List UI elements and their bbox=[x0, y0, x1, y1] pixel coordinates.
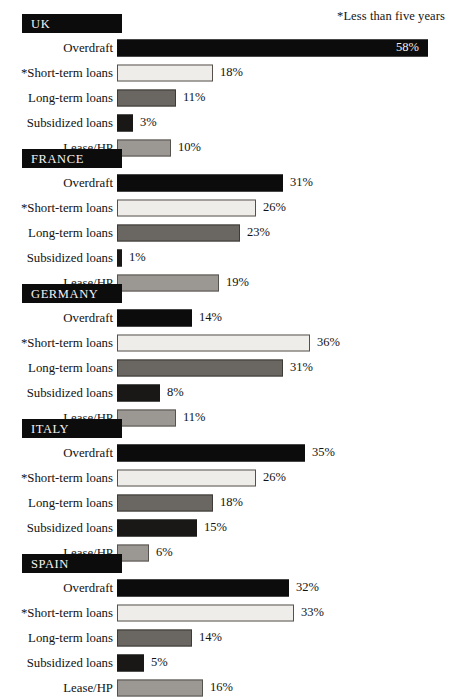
bar-value-label: 14% bbox=[199, 311, 222, 324]
bar-value-label: 35% bbox=[312, 446, 335, 459]
bar-value-label: 36% bbox=[317, 336, 340, 349]
bar-value-label: 18% bbox=[220, 496, 243, 509]
bar-value-label: 6% bbox=[156, 546, 173, 559]
bar-value-label: 3% bbox=[140, 116, 157, 129]
bar-row: *Short-term loans26% bbox=[0, 195, 451, 220]
bar-value-label: 1% bbox=[129, 251, 146, 264]
bar-row: Long-term loans31% bbox=[0, 355, 451, 380]
bar-value-label: 26% bbox=[263, 201, 286, 214]
bar bbox=[117, 519, 197, 536]
bar bbox=[117, 494, 213, 511]
country-rows: Overdraft14%*Short-term loans36%Long-ter… bbox=[0, 305, 451, 430]
bar-row-label: Long-term loans bbox=[28, 631, 113, 644]
bar bbox=[117, 629, 192, 646]
bar-row-label: Long-term loans bbox=[28, 91, 113, 104]
bar-row-label: *Short-term loans bbox=[21, 471, 113, 484]
bar-row-label: Subsidized loans bbox=[27, 386, 113, 399]
bar-row-label: Overdraft bbox=[63, 446, 113, 459]
bar-row-label: *Short-term loans bbox=[21, 201, 113, 214]
bar-row: Overdraft14% bbox=[0, 305, 451, 330]
bar-value-label: 10% bbox=[178, 141, 201, 154]
bar-value-label: 5% bbox=[151, 656, 168, 669]
bar-value-label: 31% bbox=[290, 176, 313, 189]
bar-row: *Short-term loans26% bbox=[0, 465, 451, 490]
bar-value-label: 8% bbox=[167, 386, 184, 399]
bar-row: Long-term loans11% bbox=[0, 85, 451, 110]
bar bbox=[117, 39, 428, 56]
bar bbox=[117, 249, 122, 266]
country-header-germany: GERMANY bbox=[22, 284, 122, 303]
bar bbox=[117, 444, 305, 461]
bar-value-label: 19% bbox=[226, 276, 249, 289]
bar bbox=[117, 359, 283, 376]
bar-row-label: Lease/HP bbox=[63, 681, 113, 694]
bar-row-label: *Short-term loans bbox=[21, 606, 113, 619]
bar-value-label: 14% bbox=[199, 631, 222, 644]
bar-row: Long-term loans23% bbox=[0, 220, 451, 245]
country-rows: Overdraft35%*Short-term loans26%Long-ter… bbox=[0, 440, 451, 565]
bar-row: Subsidized loans8% bbox=[0, 380, 451, 405]
bar-row-label: Overdraft bbox=[63, 176, 113, 189]
country-rows: Overdraft32%*Short-term loans33%Long-ter… bbox=[0, 575, 451, 697]
bar-value-label: 32% bbox=[296, 581, 319, 594]
bar-row-label: Overdraft bbox=[63, 581, 113, 594]
bar bbox=[117, 604, 294, 621]
bar-value-label: 18% bbox=[220, 66, 243, 79]
country-rows: Overdraft31%*Short-term loans26%Long-ter… bbox=[0, 170, 451, 295]
bar-value-label: 15% bbox=[204, 521, 227, 534]
bank-finance-sources-chart: *Less than five years UKOverdraft58%*Sho… bbox=[0, 0, 451, 697]
bar-row-label: *Short-term loans bbox=[21, 66, 113, 79]
bar-row-label: Overdraft bbox=[63, 41, 113, 54]
bar-row: Overdraft58% bbox=[0, 35, 451, 60]
bar-value-label: 58% bbox=[396, 41, 419, 54]
country-header-label: ITALY bbox=[31, 422, 69, 435]
bar bbox=[117, 89, 176, 106]
bar bbox=[117, 224, 240, 241]
bar-row: Overdraft35% bbox=[0, 440, 451, 465]
bar bbox=[117, 174, 283, 191]
bar-value-label: 16% bbox=[210, 681, 233, 694]
bar-row-label: *Short-term loans bbox=[21, 336, 113, 349]
bar-row: Subsidized loans1% bbox=[0, 245, 451, 270]
bar-value-label: 33% bbox=[301, 606, 324, 619]
bar-value-label: 26% bbox=[263, 471, 286, 484]
bar bbox=[117, 679, 203, 696]
bar-row: Subsidized loans3% bbox=[0, 110, 451, 135]
bar bbox=[117, 274, 219, 291]
country-header-label: FRANCE bbox=[31, 152, 84, 165]
bar-row-label: Subsidized loans bbox=[27, 116, 113, 129]
bar-value-label: 31% bbox=[290, 361, 313, 374]
bar-row-label: Long-term loans bbox=[28, 361, 113, 374]
bar-row: Lease/HP16% bbox=[0, 675, 451, 697]
country-header-label: SPAIN bbox=[31, 557, 69, 570]
bar bbox=[117, 469, 256, 486]
bar bbox=[117, 309, 192, 326]
bar-row: *Short-term loans36% bbox=[0, 330, 451, 355]
bar-value-label: 23% bbox=[247, 226, 270, 239]
bar bbox=[117, 409, 176, 426]
bar-row: Long-term loans18% bbox=[0, 490, 451, 515]
bar-row: Overdraft31% bbox=[0, 170, 451, 195]
country-rows: Overdraft58%*Short-term loans18%Long-ter… bbox=[0, 35, 451, 160]
bar-row: Overdraft32% bbox=[0, 575, 451, 600]
bar-row-label: Long-term loans bbox=[28, 496, 113, 509]
bar-row: Long-term loans14% bbox=[0, 625, 451, 650]
bar bbox=[117, 139, 171, 156]
bar-row-label: Overdraft bbox=[63, 311, 113, 324]
bar-value-label: 11% bbox=[183, 411, 205, 424]
bar-row: *Short-term loans18% bbox=[0, 60, 451, 85]
bar bbox=[117, 64, 213, 81]
bar bbox=[117, 334, 310, 351]
bar bbox=[117, 114, 133, 131]
bar-row: Subsidized loans5% bbox=[0, 650, 451, 675]
bar bbox=[117, 579, 289, 596]
country-header-label: GERMANY bbox=[31, 287, 98, 300]
bar-row-label: Subsidized loans bbox=[27, 656, 113, 669]
country-header-france: FRANCE bbox=[22, 149, 122, 168]
country-header-italy: ITALY bbox=[22, 419, 122, 438]
footnote-less-than-five-years: *Less than five years bbox=[337, 9, 445, 24]
bar bbox=[117, 199, 256, 216]
country-header-label: UK bbox=[31, 17, 50, 30]
country-header-uk: UK bbox=[22, 14, 122, 33]
bar-value-label: 11% bbox=[183, 91, 205, 104]
